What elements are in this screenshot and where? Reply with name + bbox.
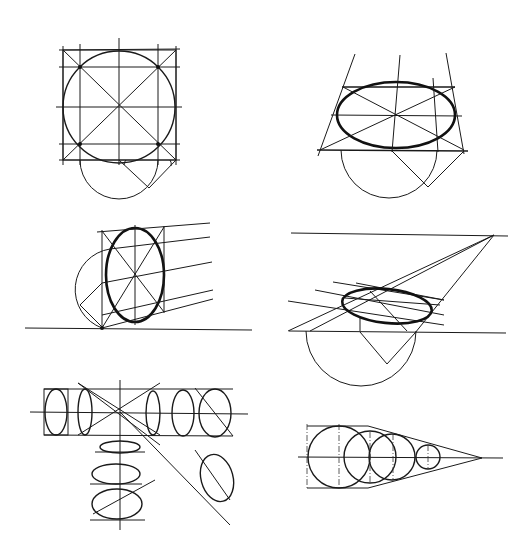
panel-horizontal-ellipse <box>317 53 468 198</box>
panel-vertical-ellipse <box>25 223 252 330</box>
panel-vanishing-point-ellipse <box>288 233 508 386</box>
diagram-canvas <box>0 0 532 556</box>
panel-square-circle <box>56 38 182 199</box>
panel-ellipse-array <box>30 380 248 530</box>
panel-receding-circles <box>298 424 503 490</box>
